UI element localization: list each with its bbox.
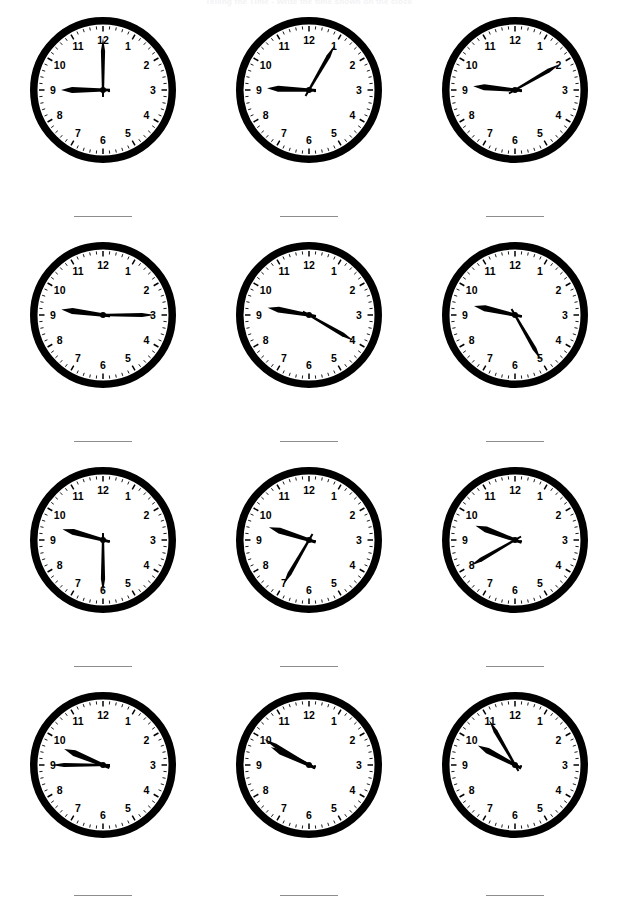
clock-item: 121234567891011	[0, 464, 206, 689]
clock-item: 121234567891011	[412, 239, 618, 464]
clock-numeral: 1	[331, 715, 337, 727]
second-hand-stub	[314, 540, 316, 542]
clock-numeral: 5	[331, 352, 337, 364]
clock-face-svg: 121234567891011	[27, 689, 179, 841]
answer-line[interactable]	[280, 666, 338, 667]
answer-line[interactable]	[74, 666, 132, 667]
clock-item: 121234567891011	[0, 239, 206, 464]
answer-line[interactable]	[486, 666, 544, 667]
clock-numeral: 4	[555, 559, 561, 571]
clock-face: 121234567891011	[233, 239, 385, 391]
clock-center-hub	[100, 762, 106, 768]
clock-numeral: 7	[487, 352, 493, 364]
clock-numeral: 7	[75, 127, 81, 139]
answer-line[interactable]	[74, 216, 132, 217]
clock-numeral: 10	[466, 734, 478, 746]
clock-numeral: 1	[125, 715, 131, 727]
clock-numeral: 12	[303, 484, 315, 496]
clock-numeral: 2	[555, 59, 561, 71]
clock-item: 121234567891011	[412, 464, 618, 689]
clock-numeral: 2	[349, 59, 355, 71]
clock-numeral: 6	[512, 359, 518, 371]
answer-line[interactable]	[280, 216, 338, 217]
clock-numeral: 10	[54, 59, 66, 71]
clock-face-svg: 121234567891011	[439, 464, 591, 616]
clock-numeral: 10	[260, 59, 272, 71]
clock-numeral: 12	[509, 34, 521, 46]
clock-numeral: 5	[125, 577, 131, 589]
clock-numeral: 3	[150, 534, 156, 546]
clock-numeral: 12	[97, 259, 109, 271]
second-hand-stub	[314, 90, 316, 92]
clock-face-svg: 121234567891011	[233, 239, 385, 391]
clock-numeral: 9	[462, 534, 468, 546]
clock-numeral: 11	[72, 490, 83, 502]
clock-numeral: 2	[143, 734, 149, 746]
clock-numeral: 3	[562, 759, 568, 771]
clock-numeral: 12	[303, 34, 315, 46]
clock-numeral: 8	[57, 334, 63, 346]
second-hand-stub	[520, 90, 522, 92]
clock-numeral: 2	[349, 509, 355, 521]
clock-numeral: 10	[466, 59, 478, 71]
clock-item: 121234567891011	[206, 689, 412, 906]
clock-numeral: 4	[143, 784, 149, 796]
clock-numeral: 7	[487, 577, 493, 589]
answer-line[interactable]	[74, 441, 132, 442]
second-hand-stub	[108, 90, 110, 92]
clock-face-svg: 121234567891011	[27, 14, 179, 166]
clock-face-svg: 121234567891011	[27, 464, 179, 616]
clock-numeral: 3	[356, 84, 362, 96]
clock-face-svg: 121234567891011	[233, 689, 385, 841]
clock-numeral: 6	[306, 134, 312, 146]
clock-numeral: 5	[125, 802, 131, 814]
clock-numeral: 4	[349, 784, 355, 796]
clock-numeral: 3	[356, 309, 362, 321]
clock-numeral: 1	[125, 40, 131, 52]
clock-center-hub	[306, 762, 312, 768]
clock-numeral: 8	[263, 109, 269, 121]
clock-numeral: 9	[462, 84, 468, 96]
clock-center-hub	[512, 87, 518, 93]
clock-numeral: 11	[484, 265, 495, 277]
answer-line[interactable]	[486, 895, 544, 896]
clock-numeral: 7	[281, 802, 287, 814]
second-hand-stub	[108, 765, 110, 767]
answer-line[interactable]	[280, 895, 338, 896]
clock-face-svg: 121234567891011	[439, 14, 591, 166]
clock-numeral: 3	[562, 84, 568, 96]
clock-center-hub	[512, 762, 518, 768]
clock-numeral: 11	[278, 490, 289, 502]
clock-numeral: 4	[143, 109, 149, 121]
answer-line[interactable]	[280, 441, 338, 442]
clock-center-hub	[306, 537, 312, 543]
clock-numeral: 1	[537, 490, 543, 502]
clock-numeral: 1	[125, 265, 131, 277]
clock-face: 121234567891011	[27, 689, 179, 841]
answer-line[interactable]	[486, 441, 544, 442]
clock-face: 121234567891011	[27, 14, 179, 166]
clock-numeral: 6	[306, 809, 312, 821]
clock-numeral: 8	[57, 784, 63, 796]
clock-numeral: 9	[256, 759, 262, 771]
clock-numeral: 10	[260, 509, 272, 521]
clock-numeral: 11	[72, 715, 83, 727]
clock-numeral: 12	[97, 709, 109, 721]
clock-face: 121234567891011	[439, 464, 591, 616]
clock-face-svg: 121234567891011	[439, 689, 591, 841]
answer-line[interactable]	[74, 895, 132, 896]
clock-numeral: 6	[100, 809, 106, 821]
clock-numeral: 1	[537, 40, 543, 52]
clock-face-svg: 121234567891011	[233, 14, 385, 166]
clock-numeral: 2	[555, 509, 561, 521]
second-hand-stub	[520, 765, 522, 767]
clock-numeral: 3	[356, 534, 362, 546]
answer-line[interactable]	[486, 216, 544, 217]
clock-numeral: 1	[331, 490, 337, 502]
clock-item: 121234567891011	[0, 14, 206, 239]
clock-numeral: 11	[278, 265, 289, 277]
clock-numeral: 2	[555, 734, 561, 746]
clock-numeral: 8	[263, 784, 269, 796]
clock-numeral: 1	[331, 265, 337, 277]
clock-numeral: 11	[484, 40, 495, 52]
